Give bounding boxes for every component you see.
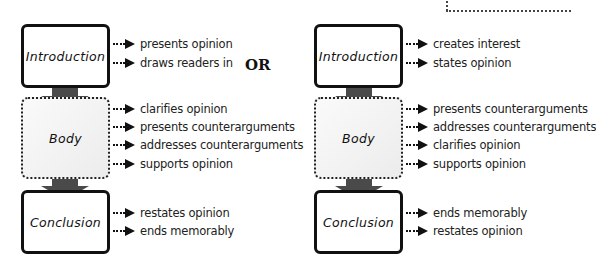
dotted-line-icon	[113, 43, 125, 45]
list-item: ends memorably	[113, 223, 234, 239]
list-item: creates interest	[406, 36, 520, 52]
arrow-right-icon	[418, 140, 428, 150]
list-item: clarifies opinion	[113, 101, 227, 117]
dotted-line-icon	[113, 62, 125, 64]
list-item: addresses counterarguments	[113, 137, 303, 153]
list-item: addresses counterarguments	[406, 119, 596, 135]
arrow-right-icon	[125, 140, 135, 150]
introduction-box: Introduction	[21, 24, 110, 88]
dotted-line-icon	[113, 163, 125, 165]
conclusion-label: Conclusion	[30, 215, 101, 230]
arrow-right-icon	[125, 208, 135, 218]
list-item: restates opinion	[113, 205, 229, 221]
list-item: presents counterarguments	[113, 119, 295, 135]
list-item: ends memorably	[406, 205, 527, 221]
conclusion-box: Conclusion	[21, 190, 110, 254]
dotted-line-icon	[406, 163, 418, 165]
arrow-right-icon	[125, 39, 135, 49]
dotted-line-icon	[406, 212, 418, 214]
list-item: presents counterarguments	[406, 101, 588, 117]
arrow-right-icon	[418, 39, 428, 49]
introduction-label: Introduction	[319, 49, 399, 64]
dotted-line-icon	[113, 108, 125, 110]
list-item: states opinion	[406, 55, 511, 71]
conclusion-label: Conclusion	[323, 215, 394, 230]
arrow-right-icon	[125, 159, 135, 169]
arrow-right-icon	[418, 104, 428, 114]
arrow-right-icon	[418, 208, 428, 218]
arrow-right-icon	[418, 58, 428, 68]
body-label: Body	[49, 131, 82, 146]
dotted-line-icon	[406, 43, 418, 45]
arrow-right-icon	[418, 226, 428, 236]
arrow-right-icon	[418, 122, 428, 132]
or-separator: OR	[245, 56, 271, 74]
list-item: supports opinion	[406, 156, 526, 172]
body-box: Body	[314, 97, 403, 179]
arrow-right-icon	[125, 58, 135, 68]
dotted-line-icon	[113, 144, 125, 146]
arrow-right-icon	[125, 122, 135, 132]
dotted-line-icon	[406, 62, 418, 64]
dotted-line-icon	[113, 230, 125, 232]
dotted-line-icon	[406, 108, 418, 110]
dotted-line-icon	[406, 144, 418, 146]
list-item: clarifies opinion	[406, 137, 520, 153]
introduction-box: Introduction	[314, 24, 403, 88]
arrow-right-icon	[125, 226, 135, 236]
dotted-line-icon	[406, 230, 418, 232]
dotted-line-icon	[406, 126, 418, 128]
body-box: Body	[21, 97, 110, 179]
body-label: Body	[342, 131, 375, 146]
dotted-line-icon	[113, 212, 125, 214]
list-item: restates opinion	[406, 223, 522, 239]
list-item: supports opinion	[113, 156, 233, 172]
list-item: presents opinion	[113, 36, 233, 52]
list-item: draws readers in	[113, 55, 233, 71]
dotted-line-icon	[113, 126, 125, 128]
conclusion-box: Conclusion	[314, 190, 403, 254]
dotted-corner-horizontal	[446, 10, 571, 12]
arrow-right-icon	[418, 159, 428, 169]
arrow-right-icon	[125, 104, 135, 114]
introduction-label: Introduction	[26, 49, 106, 64]
